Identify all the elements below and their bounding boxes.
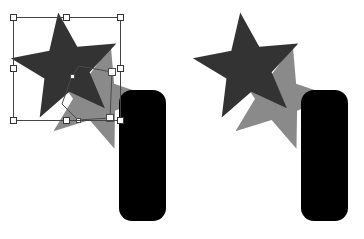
handle-bottom-right[interactable] [117, 117, 123, 123]
handle-top-left[interactable] [10, 14, 16, 20]
artwork-left [0, 0, 182, 239]
handle-middle-left[interactable] [10, 65, 16, 71]
path-anchor-1[interactable] [70, 74, 74, 78]
handle-middle-right[interactable] [117, 65, 123, 71]
handle-top-center[interactable] [63, 14, 69, 20]
panel-deselected-state [182, 0, 364, 239]
panel-selected-state [0, 0, 182, 239]
handle-bottom-left[interactable] [10, 117, 16, 123]
rounded-rectangle-shape[interactable] [119, 90, 166, 221]
path-anchor-2[interactable] [109, 69, 116, 76]
handle-top-right[interactable] [117, 14, 123, 20]
handle-bottom-center[interactable] [63, 117, 69, 123]
artwork-right [182, 0, 364, 239]
rounded-rectangle-shape[interactable] [301, 90, 348, 221]
editor-canvas [0, 0, 364, 239]
